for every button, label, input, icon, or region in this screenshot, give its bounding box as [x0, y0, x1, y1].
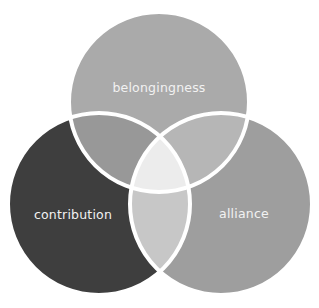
label-contribution: contribution — [34, 207, 112, 222]
venn-diagram: belongingness contribution alliance — [0, 0, 319, 308]
label-belongingness: belongingness — [112, 80, 205, 95]
label-alliance: alliance — [219, 206, 269, 221]
